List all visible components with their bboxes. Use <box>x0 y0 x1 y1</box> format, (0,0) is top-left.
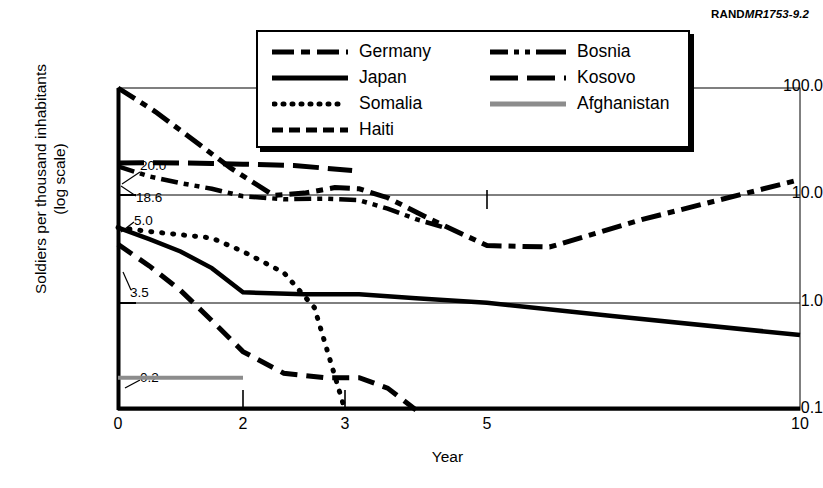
legend-label-germany: Germany <box>359 43 431 61</box>
legend-swatch-somalia-dotted-icon <box>272 98 348 110</box>
legend-column-right: Bosnia Kosovo Afghanistan <box>490 39 669 117</box>
legend-item-kosovo[interactable]: Kosovo <box>490 65 669 91</box>
leader-afghanistan <box>125 380 140 388</box>
legend-label-haiti: Haiti <box>359 121 394 139</box>
legend-swatch-germany-dash-dot-icon <box>272 46 348 58</box>
legend-item-bosnia[interactable]: Bosnia <box>490 39 669 65</box>
leader-haiti <box>123 272 131 290</box>
legend-swatch-afghanistan-solid-gray-icon <box>490 98 566 110</box>
legend-label-japan: Japan <box>359 69 407 87</box>
legend-item-haiti[interactable]: Haiti <box>272 117 431 143</box>
legend-label-afghanistan: Afghanistan <box>577 95 669 113</box>
legend-item-germany[interactable]: Germany <box>272 39 431 65</box>
legend-label-kosovo: Kosovo <box>577 69 635 87</box>
chart-legend: Germany Japan Somalia Haiti <box>256 30 690 148</box>
legend-swatch-kosovo-long-dash-icon <box>490 72 566 84</box>
legend-column-left: Germany Japan Somalia Haiti <box>272 39 431 143</box>
legend-label-bosnia: Bosnia <box>577 43 631 61</box>
legend-swatch-japan-solid-icon <box>272 72 348 84</box>
legend-label-somalia: Somalia <box>359 95 422 113</box>
figure-container: RANDMR1753-9.2 Soldiers per thousand inh… <box>0 0 823 488</box>
series-line-haiti <box>118 244 416 410</box>
legend-item-somalia[interactable]: Somalia <box>272 91 431 117</box>
legend-item-afghanistan[interactable]: Afghanistan <box>490 91 669 117</box>
legend-item-japan[interactable]: Japan <box>272 65 431 91</box>
legend-swatch-bosnia-dash-dot-dot-icon <box>490 46 566 58</box>
leader-kosovo <box>122 172 140 184</box>
series-line-japan <box>118 228 800 335</box>
series-line-somalia <box>118 228 345 410</box>
legend-swatch-haiti-dashed-icon <box>272 124 348 136</box>
